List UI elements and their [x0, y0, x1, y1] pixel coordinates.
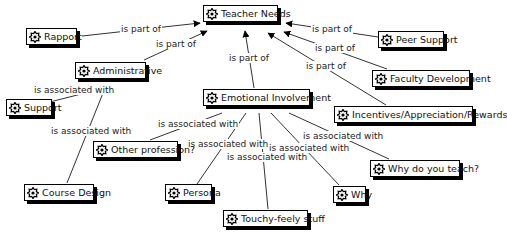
node-label: Course Design: [42, 187, 111, 198]
concept-icon: [206, 92, 218, 104]
concept-icon: [381, 34, 393, 46]
node-label: Touchy-feely stuff: [241, 213, 325, 224]
node-why[interactable]: Why: [333, 186, 366, 203]
concept-icon: [226, 213, 238, 225]
link-label: is part of: [228, 53, 270, 63]
concept-icon: [29, 31, 41, 43]
concept-icon: [336, 189, 348, 201]
link-label: is part of: [155, 39, 197, 49]
node-label: Support: [24, 102, 62, 113]
node-other-profession[interactable]: Other profession?: [93, 141, 178, 158]
concept-icon: [96, 144, 108, 156]
concept-icon: [168, 187, 180, 199]
node-label: Peer Support: [396, 34, 458, 45]
concept-icon: [373, 163, 385, 175]
node-teacher-needs[interactable]: Teacher Needs: [203, 5, 278, 22]
node-support[interactable]: Support: [6, 99, 52, 116]
node-administrative[interactable]: Administrative: [75, 62, 146, 79]
link-label: is associated with: [157, 119, 239, 129]
link-label: is part of: [120, 24, 162, 34]
node-label: Incentives/Appreciation/Rewards: [352, 109, 507, 120]
concept-icon: [375, 73, 387, 85]
node-label: Emotional Involvement: [221, 92, 331, 103]
concept-icon: [9, 102, 21, 114]
node-emotional-involvement[interactable]: Emotional Involvement: [203, 89, 310, 106]
node-touchy-feely[interactable]: Touchy-feely stuff: [223, 210, 308, 227]
link-label: is associated with: [187, 139, 269, 149]
node-incentives[interactable]: Incentives/Appreciation/Rewards: [334, 106, 473, 123]
node-peer-support[interactable]: Peer Support: [378, 31, 444, 48]
node-label: Why: [351, 189, 372, 200]
link-label: is associated with: [50, 126, 132, 136]
node-why-do-you-teach[interactable]: Why do you teach?: [370, 160, 460, 177]
node-label: Teacher Needs: [221, 8, 291, 19]
concept-icon: [27, 187, 39, 199]
link-label: is associated with: [226, 152, 308, 162]
node-label: Faculty Development: [390, 73, 491, 84]
link-label: is associated with: [33, 85, 115, 95]
concept-icon: [206, 8, 218, 20]
link-label: is part of: [311, 24, 353, 34]
link-label: is associated with: [268, 143, 350, 153]
node-faculty-development[interactable]: Faculty Development: [372, 70, 470, 87]
node-label: Why do you teach?: [388, 163, 479, 174]
node-label: Persona: [183, 187, 221, 198]
node-label: Other profession?: [111, 144, 195, 155]
link-label: is part of: [314, 43, 356, 53]
node-persona[interactable]: Persona: [165, 184, 212, 201]
concept-icon: [78, 65, 90, 77]
link-label: is associated with: [302, 131, 384, 141]
node-rapport[interactable]: Rapport: [26, 28, 77, 45]
node-label: Rapport: [44, 31, 82, 42]
node-label: Administrative: [93, 65, 162, 76]
concept-icon: [337, 109, 349, 121]
link-label: is part of: [305, 61, 347, 71]
node-course-design[interactable]: Course Design: [24, 184, 94, 201]
